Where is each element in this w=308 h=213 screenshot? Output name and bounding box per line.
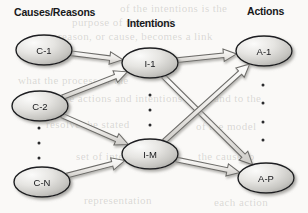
column-header-intentions: Intentions (127, 17, 175, 29)
node-label: C-N (34, 177, 51, 188)
node-c2: C-2 (12, 91, 68, 121)
actions-ellipsis-dot (262, 102, 265, 105)
node-label: A-P (258, 173, 274, 184)
node-cn: C-N (14, 167, 70, 197)
diagram-svg: C-1C-2C-NI-1I-MA-1A-P (0, 0, 308, 213)
node-label: I-1 (144, 58, 155, 69)
edge-arrow-c2-to-im (61, 113, 128, 145)
node-i1: I-1 (122, 48, 178, 78)
intentions-ellipsis-dot (149, 94, 152, 97)
node-label: I-M (143, 149, 157, 160)
edge-arrow-c1-to-i1 (71, 51, 123, 64)
intentions-ellipsis-dot (149, 124, 152, 127)
node-label: C-2 (32, 101, 47, 112)
actions-ellipsis-dot (262, 84, 265, 87)
node-label: C-1 (36, 45, 51, 56)
causes-ellipsis-dot (38, 142, 41, 145)
node-a1: A-1 (236, 36, 292, 66)
node-im: I-M (122, 139, 178, 169)
causes-ellipsis-dot (38, 127, 41, 130)
actions-ellipsis-dot (262, 139, 265, 142)
edge-arrow-im-to-a1 (163, 64, 250, 143)
column-header-causes: Causes/Reasons (14, 6, 95, 18)
figure-canvas: of the intentions is thepurpose of the s… (0, 0, 308, 213)
edge-arrow-i1-to-a1 (177, 49, 236, 62)
edge-arrow-cn-to-im (67, 158, 125, 178)
actions-ellipsis-dot (262, 121, 265, 124)
node-c1: C-1 (16, 35, 72, 65)
column-header-actions: Actions (247, 5, 284, 17)
node-ap: A-P (238, 163, 294, 193)
causes-ellipsis-dot (38, 157, 41, 160)
node-label: A-1 (257, 46, 272, 57)
edge-arrow-im-to-ap (176, 157, 240, 176)
edge-arrow-c2-to-i1 (62, 71, 128, 100)
intentions-ellipsis-dot (149, 109, 152, 112)
node-layer: C-1C-2C-NI-1I-MA-1A-P (12, 35, 294, 197)
